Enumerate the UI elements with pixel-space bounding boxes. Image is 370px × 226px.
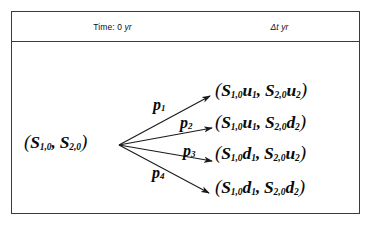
probability-label-2: p2 (180, 114, 193, 132)
header-time-delta-unit: yr (281, 22, 288, 32)
node-outcome-3-s1-sub: 1,0 (231, 153, 243, 163)
node-outcome-2-comma: , (257, 113, 265, 132)
node-outcome-2-move2: d (286, 112, 295, 132)
node-outcome-4-comma: , (256, 178, 264, 197)
node-outcome-2-s2: S (265, 112, 275, 132)
node-outcome-3-move1: d (243, 143, 252, 163)
node-outcome-4-s2-sub: 2,0 (274, 187, 286, 197)
node-outcome-2-close-paren: ) (300, 111, 306, 132)
node-outcome-4-s1-sub: 1,0 (231, 187, 243, 197)
probability-label-1-symbol: p (153, 96, 161, 113)
probability-label-4-sub: 4 (160, 171, 165, 181)
node-outcome-3: (S1,0d1, S2,0u2) (215, 142, 306, 164)
node-outcome-4-s1: S (221, 177, 231, 197)
header-band: Time: 0 yr Δt yr (12, 12, 359, 42)
node-outcome-1-move1: u (243, 80, 253, 100)
node-root: (S1,0, S2,0) (24, 131, 87, 153)
node-outcome-1-comma: , (257, 81, 265, 100)
node-outcome-3-s2-sub: 2,0 (274, 153, 286, 163)
node-outcome-1: (S1,0u1, S2,0u2) (215, 79, 307, 101)
node-root-s2-sub: 2,0 (69, 142, 81, 152)
node-outcome-1-s2-sub: 2,0 (275, 90, 287, 100)
probability-label-3-sub: 3 (191, 149, 196, 159)
probability-label-3-symbol: p (183, 142, 191, 159)
node-root-s2: S (60, 132, 70, 152)
probability-label-2-symbol: p (180, 114, 188, 131)
node-outcome-2-s2-sub: 2,0 (275, 122, 287, 132)
node-outcome-3-close-paren: ) (300, 142, 306, 163)
tree-body: (S1,0, S2,0) (S1,0u1, S2,0u2) (S1,0u1, S… (12, 42, 359, 213)
node-outcome-3-move2: u (285, 143, 295, 163)
header-time-zero-unit: yr (124, 22, 131, 32)
node-outcome-4-close-paren: ) (299, 176, 305, 197)
header-time-delta: Δt yr (202, 12, 357, 42)
probability-label-4-symbol: p (152, 164, 160, 181)
figure-canvas: Time: 0 yr Δt yr (0, 0, 370, 226)
node-outcome-4-s2: S (264, 177, 274, 197)
node-outcome-1-close-paren: ) (301, 79, 307, 100)
node-outcome-2-move1: u (243, 112, 253, 132)
figure-frame: Time: 0 yr Δt yr (11, 11, 360, 214)
header-time-zero: Time: 0 yr (30, 12, 195, 42)
node-outcome-1-s2: S (265, 80, 275, 100)
node-outcome-3-comma: , (256, 144, 264, 163)
probability-label-1-sub: 1 (161, 103, 166, 113)
node-outcome-1-s1: S (221, 80, 231, 100)
node-outcome-2-s1: S (221, 112, 231, 132)
node-root-s1-sub: 1,0 (40, 142, 52, 152)
node-outcome-4-move2: d (285, 177, 294, 197)
node-outcome-4: (S1,0d1, S2,0d2) (215, 176, 305, 198)
probability-label-4: p4 (152, 164, 165, 182)
branch-line-2 (119, 128, 212, 145)
node-outcome-3-s2: S (264, 143, 274, 163)
header-time-delta-prefix: Δt (270, 22, 278, 32)
node-root-s1: S (30, 132, 40, 152)
node-root-close-paren: ) (81, 131, 87, 152)
node-outcome-2: (S1,0u1, S2,0d2) (215, 111, 306, 133)
probability-label-3: p3 (183, 142, 196, 160)
node-outcome-4-move1: d (243, 177, 252, 197)
node-outcome-1-move2: u (286, 80, 296, 100)
node-outcome-3-s1: S (221, 143, 231, 163)
probability-label-1: p1 (153, 96, 166, 114)
probability-label-2-sub: 2 (188, 121, 193, 131)
node-outcome-2-s1-sub: 1,0 (231, 122, 243, 132)
node-root-comma: , (52, 133, 60, 152)
header-time-zero-prefix: Time: 0 (93, 22, 122, 32)
node-outcome-1-s1-sub: 1,0 (231, 90, 243, 100)
